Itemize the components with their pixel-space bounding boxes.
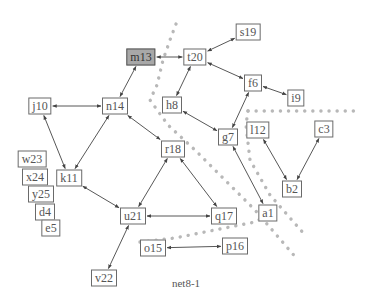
network-diagram: m13t20s19f6i9h8g7l12c3b2a1q17p16o15u21r1… <box>0 0 372 305</box>
edge-u21-v22 <box>108 226 128 269</box>
node-t20[interactable]: t20 <box>183 49 206 66</box>
node-q17[interactable]: q17 <box>211 208 237 225</box>
edges-layer <box>0 0 372 305</box>
node-x24[interactable]: x24 <box>22 169 48 186</box>
edge-j10-k11 <box>44 116 65 169</box>
edge-n14-k11 <box>75 116 109 169</box>
node-v22[interactable]: v22 <box>91 270 117 287</box>
node-e5[interactable]: e5 <box>41 220 60 237</box>
node-w23[interactable]: w23 <box>18 151 47 168</box>
edge-h8-g7 <box>183 111 217 130</box>
node-f6[interactable]: f6 <box>244 75 262 92</box>
node-g7[interactable]: g7 <box>218 129 238 146</box>
edge-g7-a1 <box>233 147 263 204</box>
node-o15[interactable]: o15 <box>140 240 166 257</box>
node-a1[interactable]: a1 <box>258 205 277 222</box>
node-d4[interactable]: d4 <box>35 204 55 221</box>
node-i9[interactable]: i9 <box>287 90 304 107</box>
node-s19[interactable]: s19 <box>236 24 261 41</box>
node-m13[interactable]: m13 <box>126 49 155 66</box>
edge-m13-n14 <box>120 67 136 97</box>
node-j10[interactable]: j10 <box>28 98 51 115</box>
edge-l12-b2 <box>263 140 286 180</box>
edge-n14-r18 <box>128 116 160 140</box>
node-r18[interactable]: r18 <box>161 141 185 158</box>
node-l12[interactable]: l12 <box>246 122 269 139</box>
node-c3[interactable]: c3 <box>314 121 333 138</box>
edge-c3-b2 <box>297 139 319 180</box>
node-h8[interactable]: h8 <box>162 97 182 114</box>
edge-t20-s19 <box>208 38 235 51</box>
node-k11[interactable]: k11 <box>56 170 82 187</box>
node-n14[interactable]: n14 <box>102 98 128 115</box>
edge-f6-i9 <box>263 86 286 94</box>
node-u21[interactable]: u21 <box>120 208 146 225</box>
node-b2[interactable]: b2 <box>282 181 302 198</box>
edge-t20-h8 <box>177 67 191 96</box>
node-y25[interactable]: y25 <box>28 186 54 203</box>
edge-k11-u21 <box>83 186 119 208</box>
diagram-caption: net8-1 <box>172 277 200 289</box>
edge-t20-f6 <box>208 63 243 79</box>
edge-o15-p16 <box>167 246 221 247</box>
node-p16[interactable]: p16 <box>222 238 248 255</box>
edge-r18-u21 <box>139 159 168 207</box>
